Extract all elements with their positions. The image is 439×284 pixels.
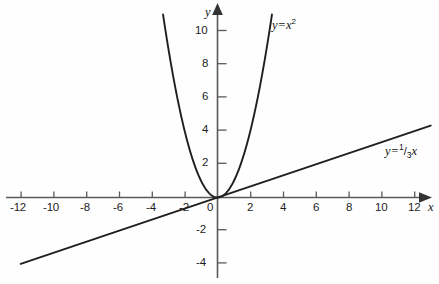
annotation-line: y=1/3x	[385, 145, 417, 158]
annotation-parabola: y=x2	[272, 19, 296, 32]
plot-canvas	[0, 0, 439, 284]
y-axis-ticks	[218, 31, 227, 263]
curve-line	[21, 126, 431, 264]
x-tick-label: -4	[146, 202, 156, 214]
graph-figure: -12 -10 -8 -6 -4 -2 0 2 4 6 8 10 12 10 8…	[0, 0, 439, 284]
y-tick-label: -2	[196, 224, 206, 236]
annotation-parabola-exponent: 2	[292, 17, 296, 26]
x-tick-label: 6	[313, 202, 319, 214]
x-tick-label: -6	[113, 202, 123, 214]
x-tick-label: 2	[247, 202, 253, 214]
x-tick-label: 10	[375, 202, 387, 214]
y-axis-label: y	[205, 6, 211, 19]
x-tick-label: -12	[10, 202, 26, 214]
x-axis-label: x	[428, 201, 434, 214]
annotation-parabola-text: y=x	[272, 18, 292, 32]
x-tick-label: -8	[80, 202, 90, 214]
y-axis-arrowhead	[212, 3, 223, 15]
y-tick-label: 10	[195, 25, 207, 37]
y-tick-label: 8	[202, 58, 208, 70]
annotation-line-fraction: 1/3	[399, 146, 412, 157]
y-tick-label: 2	[202, 157, 208, 169]
x-tick-label: -10	[43, 202, 59, 214]
annotation-line-prefix: y=	[385, 144, 399, 158]
x-tick-label: 4	[280, 202, 286, 214]
x-tick-label-origin: 0	[207, 202, 213, 214]
x-tick-label: 12	[408, 202, 420, 214]
x-tick-label: 8	[346, 202, 352, 214]
annotation-line-suffix: x	[412, 144, 418, 158]
y-tick-label: -4	[196, 257, 206, 269]
x-tick-label: -2	[179, 202, 189, 214]
y-tick-label: 4	[202, 124, 208, 136]
y-tick-label: 6	[202, 91, 208, 103]
